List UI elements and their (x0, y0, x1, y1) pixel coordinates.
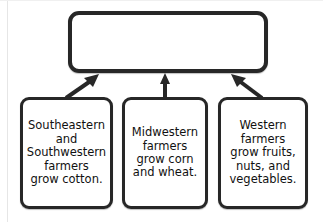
top-answer-box[interactable] (68, 11, 268, 73)
diagram-canvas: Southeastern and Southwestern farmers gr… (0, 0, 323, 222)
node-western[interactable]: Western farmers grow fruits, nuts, and v… (218, 97, 308, 209)
node-southeastern-southwestern-text: Southeastern and Southwestern farmers gr… (25, 119, 108, 186)
node-southeastern-southwestern[interactable]: Southeastern and Southwestern farmers gr… (20, 97, 113, 209)
node-western-text: Western farmers grow fruits, nuts, and v… (227, 119, 298, 186)
page-edge-line-left (7, 0, 8, 222)
arrow-midwest-to-top (160, 73, 170, 97)
arrow-southeast-to-top (66, 74, 99, 98)
arrow-west-to-top (231, 74, 262, 98)
node-midwestern-text: Midwestern farmers grow corn and wheat. (130, 126, 200, 180)
page-edge-line-top (0, 0, 323, 1)
node-midwestern[interactable]: Midwestern farmers grow corn and wheat. (122, 97, 208, 209)
